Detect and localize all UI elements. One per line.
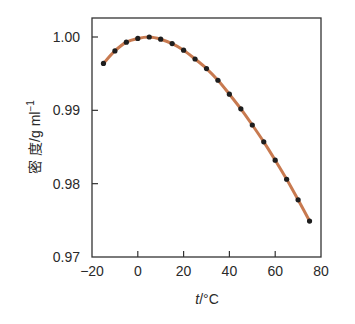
density-chart: −20020406080 0.970.980.991.00 t/°C 密 度/g… <box>0 0 355 324</box>
x-axis-ticks: −20020406080 <box>80 251 329 279</box>
y-tick-label: 0.99 <box>53 102 80 118</box>
data-point <box>158 37 163 42</box>
data-point <box>124 40 129 45</box>
data-point <box>215 78 220 83</box>
x-tick-label: 40 <box>222 263 238 279</box>
data-point <box>112 48 117 53</box>
y-tick-label: 1.00 <box>53 29 80 45</box>
x-tick-label: −20 <box>80 263 104 279</box>
x-tick-label: 0 <box>134 263 142 279</box>
plot-frame <box>92 18 321 257</box>
y-axis-ticks: 0.970.980.991.00 <box>53 29 98 265</box>
data-point <box>101 61 106 66</box>
data-point <box>204 66 209 71</box>
data-point <box>238 106 243 111</box>
density-curve <box>103 37 309 221</box>
data-point <box>273 158 278 163</box>
data-point <box>181 48 186 53</box>
data-point <box>307 218 312 223</box>
y-tick-label: 0.97 <box>53 249 80 265</box>
x-tick-label: 80 <box>313 263 329 279</box>
data-point <box>296 197 301 202</box>
data-points <box>101 34 312 223</box>
y-tick-label: 0.98 <box>53 176 80 192</box>
data-point <box>170 41 175 46</box>
data-point <box>250 122 255 127</box>
data-point <box>284 177 289 182</box>
data-point <box>227 92 232 97</box>
x-tick-label: 60 <box>267 263 283 279</box>
y-axis-title: 密 度/g ml−1 <box>25 100 43 174</box>
x-tick-label: 20 <box>176 263 192 279</box>
x-axis-title: t/°C <box>195 291 219 307</box>
data-point <box>147 34 152 39</box>
data-point <box>261 139 266 144</box>
data-point <box>135 36 140 41</box>
data-point <box>192 56 197 61</box>
